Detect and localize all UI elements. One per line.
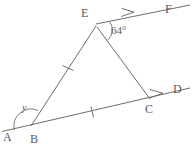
line-be xyxy=(31,26,96,126)
vertex-label-e: E xyxy=(81,6,88,20)
vertex-label-a: A xyxy=(3,130,12,144)
line-ec xyxy=(97,27,150,99)
geometry-figure: A B C D E F 64° y xyxy=(0,0,193,144)
vertex-label-b: B xyxy=(30,132,38,144)
vertex-label-c: C xyxy=(145,102,153,116)
line-ef xyxy=(96,5,190,24)
angle-label-y: y xyxy=(21,102,27,113)
vertex-label-d: D xyxy=(173,82,182,96)
vertex-label-f: F xyxy=(165,2,172,16)
arrow-marker-ef xyxy=(122,9,135,17)
line-abcd xyxy=(2,88,190,132)
geometry-canvas: A B C D E F 64° y xyxy=(0,0,193,144)
angle-label-64: 64° xyxy=(111,24,126,36)
tick-mark-bc xyxy=(91,107,94,118)
